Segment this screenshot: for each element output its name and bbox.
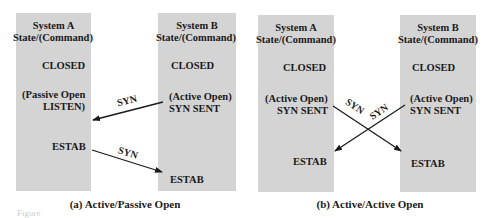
- panel-b-syn-b-to-a-arrow: SYN: [335, 101, 405, 151]
- panel-b-syn-label-2: SYN: [367, 101, 390, 122]
- panel-b-syn-a-to-b-arrow: SYN: [333, 96, 401, 151]
- panel-a-syn-label-1: SYN: [116, 93, 139, 109]
- panel-b-syn-label-1: SYN: [344, 96, 367, 117]
- panel-a-syn-b-to-a-arrow: SYN: [93, 93, 163, 120]
- message-arrows: SYN SYN SYN SYN: [0, 0, 487, 218]
- panel-a-syn-a-to-b-arrow: SYN: [92, 144, 162, 172]
